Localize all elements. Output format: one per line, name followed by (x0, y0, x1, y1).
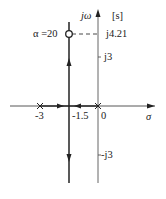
plane-label: [s] (112, 11, 123, 22)
marker-circle (66, 31, 73, 38)
pole-label-0: 0 (101, 111, 106, 122)
real-axis-arrow-icon (147, 104, 155, 109)
tick-label-neg-j3: -j3 (101, 150, 113, 161)
tick-label-j3: j3 (104, 52, 112, 63)
locus-arrow-left-icon (74, 104, 81, 109)
root-locus-plot (0, 0, 166, 199)
breakaway-label: -1.5 (72, 111, 89, 122)
locus-arrow-up-icon (67, 58, 72, 66)
marker-label: α =20 (33, 29, 58, 40)
imaginary-axis-arrow-icon (96, 9, 101, 17)
locus-arrow-right-icon (57, 104, 64, 109)
tick-label-j421: j4.21 (106, 29, 127, 40)
locus-arrow-down-icon (67, 154, 72, 162)
root-locus-diagram: jω [s] α =20 j4.21 j3 -3 -1.5 0 σ -j3 (0, 0, 166, 199)
pole-label-neg3: -3 (35, 111, 44, 122)
imaginary-axis-label: jω (81, 11, 91, 22)
real-axis-label: σ (146, 112, 151, 123)
